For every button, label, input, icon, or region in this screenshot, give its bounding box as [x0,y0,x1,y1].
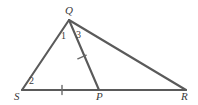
angle-label-2: 2 [29,76,34,86]
segment-QP [69,20,99,90]
angle-label-1: 1 [61,31,66,41]
angle-label-3: 3 [76,30,81,40]
vertex-label-Q: Q [65,5,73,16]
geometry-figure: Q S P R 1 3 2 [0,0,198,105]
vertex-label-P: P [96,91,103,102]
vertex-label-R: R [181,91,188,102]
vertex-label-S: S [14,91,20,102]
